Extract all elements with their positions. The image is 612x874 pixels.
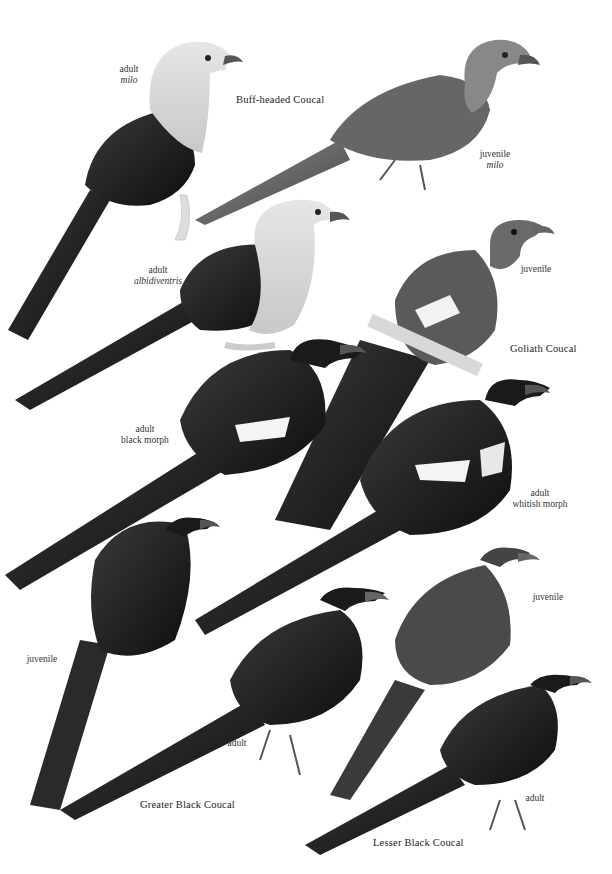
species-title-buff-headed-coucal: Buff-headed Coucal (236, 94, 324, 105)
label-lesser-black-adult: adult (520, 793, 550, 804)
label-buff-headed-adult-albidiventris: adult albidiventris (128, 265, 188, 287)
label-greater-black-adult: adult (222, 738, 252, 749)
species-title-lesser-black-coucal: Lesser Black Coucal (373, 837, 464, 848)
bird-buff-headed-juvenile-milo (195, 40, 540, 225)
label-subspecies: milo (470, 160, 520, 171)
label-lesser-black-juvenile: juvenile (528, 592, 568, 603)
species-title-greater-black-coucal: Greater Black Coucal (140, 799, 235, 810)
bird-illustrations (0, 0, 612, 874)
species-title-goliath-coucal: Goliath Coucal (510, 343, 577, 354)
label-age: adult (228, 738, 247, 748)
label-morph: whitish morph (512, 499, 567, 509)
label-age: juvenile (27, 654, 58, 664)
label-age: juvenile (533, 592, 564, 602)
label-subspecies: albidiventris (128, 276, 188, 287)
label-buff-headed-adult-milo: adult milo (112, 64, 146, 86)
label-age: adult (149, 265, 168, 275)
label-age: adult (120, 64, 139, 74)
label-greater-black-juvenile: juvenile (22, 654, 62, 665)
label-goliath-juvenile: juvenile (516, 264, 556, 275)
label-goliath-adult-black-morph: adult black morph (110, 424, 180, 446)
label-subspecies: milo (112, 75, 146, 86)
label-morph: black morph (121, 435, 169, 445)
label-age: adult (136, 424, 155, 434)
label-age: juvenile (521, 264, 552, 274)
label-goliath-adult-whitish-morph: adult whitish morph (500, 488, 580, 510)
illustration-plate: adult milo Buff-headed Coucal juvenile m… (0, 0, 612, 874)
label-age: adult (526, 793, 545, 803)
label-age: adult (531, 488, 550, 498)
label-buff-headed-juvenile-milo: juvenile milo (470, 149, 520, 171)
label-age: juvenile (480, 149, 511, 159)
